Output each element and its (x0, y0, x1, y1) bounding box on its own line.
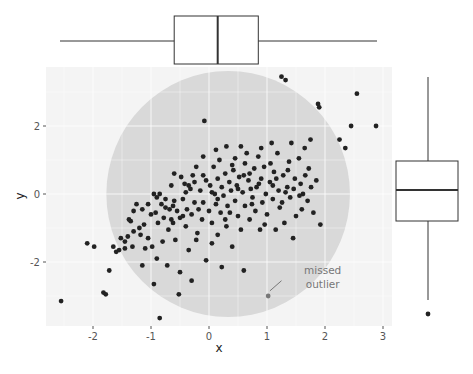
data-point (374, 124, 379, 129)
data-point (273, 227, 278, 232)
data-point (192, 180, 197, 185)
data-point (252, 166, 257, 171)
data-point (297, 156, 302, 161)
data-point (125, 234, 130, 239)
data-point (311, 210, 316, 215)
data-point (224, 224, 229, 229)
data-point (130, 244, 135, 249)
data-point (256, 181, 261, 186)
data-point (159, 202, 164, 207)
data-point (140, 263, 145, 268)
top-box-iqr (174, 16, 258, 64)
data-point (236, 187, 241, 192)
data-point (172, 198, 177, 203)
data-point (343, 146, 348, 151)
y-tick-label: 2 (34, 121, 40, 132)
data-point (190, 173, 195, 178)
data-point (146, 236, 151, 241)
data-point (157, 316, 162, 321)
data-point (189, 212, 194, 217)
data-point (183, 190, 188, 195)
y-axis-title: y (13, 192, 27, 199)
x-axis: -2-10123 (88, 326, 386, 342)
data-point (143, 246, 148, 251)
data-point (309, 185, 314, 190)
right-marginal-boxplot (396, 77, 458, 316)
data-point (59, 299, 64, 304)
data-point (156, 221, 161, 226)
data-point (275, 151, 280, 156)
data-point (146, 202, 151, 207)
data-point (305, 198, 310, 203)
data-point (230, 244, 235, 249)
x-tick-label: -1 (146, 331, 156, 342)
data-point (283, 78, 288, 83)
data-point (221, 193, 226, 198)
annotation-text-line1: missed (304, 264, 341, 276)
x-axis-title: x (215, 341, 222, 355)
data-point (157, 192, 162, 197)
data-point (256, 154, 261, 159)
data-point (247, 217, 252, 222)
data-point (165, 263, 170, 268)
data-point (175, 209, 180, 214)
data-point (240, 190, 245, 195)
data-point (195, 231, 200, 236)
data-point (268, 161, 273, 166)
data-point (204, 258, 209, 263)
scatter-with-marginal-boxplots: missed outlier -2-10123 -202 x y (0, 0, 473, 374)
data-point (292, 176, 297, 181)
data-point (152, 192, 157, 197)
data-point (229, 188, 234, 193)
data-point (269, 141, 274, 146)
data-point (250, 202, 255, 207)
data-point (270, 183, 275, 188)
data-point (172, 171, 177, 176)
data-point (283, 190, 288, 195)
data-point (219, 265, 224, 270)
data-point (167, 207, 172, 212)
data-point (211, 164, 216, 169)
data-point (214, 202, 219, 207)
data-point (131, 229, 136, 234)
y-axis: -202 (30, 121, 46, 268)
data-point (194, 238, 199, 243)
data-point (318, 222, 323, 227)
data-point (215, 197, 220, 202)
data-point (163, 197, 168, 202)
data-point (289, 141, 294, 146)
data-point (349, 124, 354, 129)
data-point (270, 197, 275, 202)
data-point (262, 222, 267, 227)
missed-outlier-point (266, 294, 271, 299)
data-point (207, 209, 212, 214)
data-point (181, 214, 186, 219)
data-point (218, 210, 223, 215)
data-point (248, 187, 253, 192)
data-point (239, 227, 244, 232)
data-point (281, 173, 286, 178)
data-point (274, 176, 279, 181)
data-point (204, 178, 209, 183)
data-point (276, 188, 281, 193)
annotation-text-line2: outlier (306, 278, 340, 290)
data-point (308, 137, 313, 142)
data-point (123, 239, 128, 244)
data-point (142, 222, 147, 227)
y-tick-label: 0 (34, 189, 40, 200)
data-point (169, 183, 174, 188)
data-point (303, 173, 308, 178)
data-point (287, 159, 292, 164)
right-box-outlier (426, 312, 431, 317)
data-point (294, 214, 299, 219)
data-point (223, 217, 228, 222)
data-point (299, 207, 304, 212)
data-point (137, 226, 142, 231)
data-point (214, 147, 219, 152)
data-point (237, 175, 242, 180)
data-point (217, 158, 222, 163)
data-point (201, 200, 206, 205)
data-point (128, 219, 133, 224)
data-point (150, 244, 155, 249)
data-point (134, 202, 139, 207)
